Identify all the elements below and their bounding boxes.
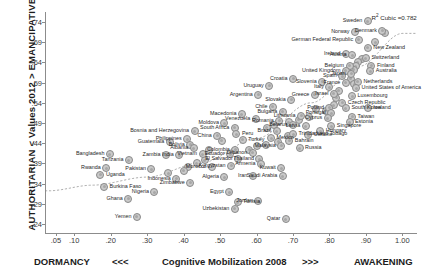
x-tick-label: .10	[69, 236, 79, 245]
data-point-label: India	[162, 153, 174, 158]
x-axis-title-band: DORMANCY <<< Cognitive Mobilization 2008…	[34, 256, 426, 272]
data-point-label: Bangladesh	[76, 152, 104, 157]
data-point-label: Kuwait	[260, 166, 276, 171]
data-point-label: Greece	[292, 92, 310, 97]
x-tick-label: .05	[51, 236, 61, 245]
data-point-label: New Zealand	[373, 45, 405, 50]
x-tick-label: .70	[288, 236, 298, 245]
data-point-label: Pakistan	[125, 166, 146, 171]
data-point-label: China	[198, 133, 212, 138]
data-point-label: Australia	[376, 69, 397, 74]
x-tick-label: 1.00	[395, 236, 410, 245]
y-tick-label: .64	[32, 58, 42, 67]
y-tick-label: .59	[32, 78, 42, 87]
y-tick-label: .49	[32, 119, 42, 128]
data-labels-layer: SwedenDenmarkNorwayGerman Federal Republ…	[45, 12, 417, 234]
y-tick-label: .74	[32, 18, 42, 27]
data-point-label: Denmark	[355, 28, 377, 33]
data-point-label: Venezuela	[225, 116, 250, 121]
data-point-label: France	[324, 80, 341, 85]
x-tick-label: .30	[142, 236, 152, 245]
data-point-label: Russia	[305, 145, 321, 150]
data-point-label: Mexico	[277, 136, 294, 141]
data-point-label: Tanzania	[102, 157, 124, 162]
data-point-label: Austria	[330, 52, 347, 57]
data-point-label: Saudi Arabia	[247, 174, 278, 179]
data-point-label: South Africa	[200, 125, 229, 130]
data-point-label: Zimbabwe	[160, 180, 185, 185]
data-point-label: Macedonia	[210, 111, 236, 116]
x-arrows-left: <<<	[112, 256, 129, 267]
x-arrows-right: >>>	[302, 256, 319, 267]
y-tick-label: .69	[32, 38, 42, 47]
data-point-label: Iceland	[373, 105, 390, 110]
x-label-awakening: AWAKENING	[354, 256, 413, 267]
y-tick-label: .39	[32, 159, 42, 168]
data-point-label: Uganda	[106, 172, 125, 177]
data-point-label: Nigeria	[132, 190, 149, 195]
data-point-label: Yemen	[115, 214, 132, 219]
data-point-label: Uruguay	[243, 83, 263, 88]
data-point-label: Qatar	[267, 216, 280, 221]
data-point-label: Sweden	[343, 19, 362, 24]
data-point-label: Belarus	[269, 122, 287, 127]
x-tick-label: .40	[178, 236, 188, 245]
data-point-label: Israel	[315, 91, 328, 96]
data-point-label: Uzbekistan	[202, 206, 229, 211]
plot-area: .24.29.34.39.44.49.54.59.64.69.74 .05.10…	[45, 12, 417, 234]
y-tick-label: .34	[32, 179, 42, 188]
data-point-label: Malaysia	[255, 143, 276, 148]
data-point-label: Jordan	[236, 199, 252, 204]
data-point-label: Morocco	[186, 164, 207, 169]
data-point-label: Cyprus	[305, 115, 322, 120]
data-point-label: Egypt	[210, 190, 224, 195]
x-tick-label: .20	[105, 236, 115, 245]
data-point-label: Norway	[331, 29, 349, 34]
data-point-label: Croatia	[270, 76, 287, 81]
y-tick-label: .54	[32, 98, 42, 107]
x-tick-label: .80	[324, 236, 334, 245]
data-point-label: Argentina	[230, 92, 253, 97]
data-point-label: Algeria	[202, 174, 219, 179]
y-tick-label: .24	[32, 219, 42, 228]
data-point-label: Latvia	[286, 124, 300, 129]
data-point-label: United States of America	[362, 86, 421, 91]
x-label-dormancy: DORMANCY	[34, 256, 90, 267]
data-point-label: Armenia	[235, 161, 255, 166]
r-squared-annotation: R2 Cubic =0.782	[371, 13, 416, 21]
data-point-label: Ghana	[106, 196, 122, 201]
data-point-label: Lithuania	[274, 113, 296, 118]
data-point-label: Ukraine	[314, 132, 333, 137]
y-tick-label: .44	[32, 139, 42, 148]
data-point-label: German Federal Republic	[291, 37, 353, 42]
x-tick-label: .50	[215, 236, 225, 245]
data-point-label: Bosnia and Herzegovina	[130, 128, 189, 133]
y-axis-title: AUTHORITARIAN < Values 2012 > EMANCIPATI…	[26, 1, 37, 231]
data-point-label: Brazil	[258, 128, 271, 133]
data-point-label: Guatemala	[138, 139, 164, 144]
data-point-label: Zambia	[143, 153, 161, 158]
data-point-label: Switzerland	[371, 56, 399, 61]
y-tick-label: .29	[32, 199, 42, 208]
data-point-label: Rwanda	[81, 166, 101, 171]
data-point-label: Bahrain	[295, 138, 314, 143]
x-tick-label: .90	[361, 236, 371, 245]
x-axis-title: Cognitive Mobilization 2008	[162, 256, 287, 267]
scatter-plot-figure: AUTHORITARIAN < Values 2012 > EMANCIPATI…	[0, 0, 432, 279]
r2-value: Cubic =0.782	[378, 14, 416, 21]
data-point-label: Vietnam	[177, 152, 197, 157]
data-point-label: Iran	[238, 174, 247, 179]
x-tick-label: .60	[251, 236, 261, 245]
data-point-label: Slovakia	[265, 97, 285, 102]
